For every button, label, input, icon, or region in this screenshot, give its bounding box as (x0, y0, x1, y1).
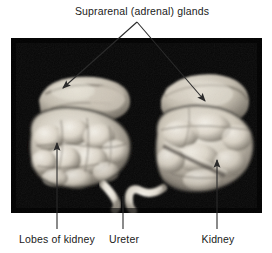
kidney-label: Kidney (201, 233, 234, 245)
suprarenal-glands-label: Suprarenal (adrenal) glands (75, 5, 209, 17)
suprarenal-glands-callout (63, 22, 205, 101)
callout-lines-layer (0, 0, 272, 253)
anatomical-figure: Suprarenal (adrenal) glands Lobes of kid… (0, 0, 272, 253)
lobes-of-kidney-label: Lobes of kidney (19, 233, 95, 245)
ureter-label: Ureter (109, 233, 139, 245)
